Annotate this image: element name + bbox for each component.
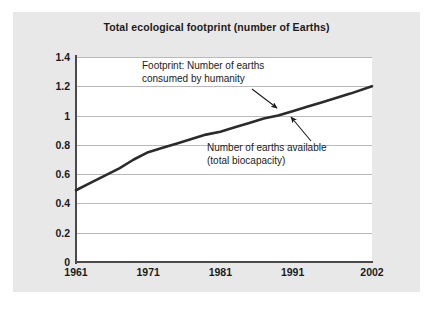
gridline [76, 233, 372, 234]
x-tick-label: 2002 [360, 266, 383, 278]
x-tick-label: 1991 [281, 266, 304, 278]
x-axis-line [75, 261, 373, 263]
gridline [76, 86, 372, 87]
chart-figure: Total ecological footprint (number of Ea… [0, 0, 434, 312]
y-axis-ticks: 00.20.40.60.811.21.4 [34, 57, 70, 262]
y-axis-line [75, 55, 77, 264]
gridline [76, 57, 372, 58]
y-tick-label: 1.4 [36, 51, 70, 63]
y-tick-label: 1.2 [36, 80, 70, 92]
x-tick-label: 1961 [64, 266, 87, 278]
annotation-footprint: Footprint: Number of earths consumed by … [142, 60, 264, 85]
gridline [76, 203, 372, 204]
x-tick-label: 1981 [209, 266, 232, 278]
y-tick-label: 0.8 [36, 139, 70, 151]
annotation-footprint-line1: Footprint: Number of earths [142, 60, 264, 73]
annotation-biocapacity-line2: (total biocapacity) [207, 155, 327, 168]
gridline [76, 174, 372, 175]
annotation-biocapacity: Number of earths available (total biocap… [207, 142, 327, 167]
x-tick-label: 1971 [137, 266, 160, 278]
y-tick-label: 1 [36, 110, 70, 122]
y-tick-label: 0.4 [36, 197, 70, 209]
chart-title: Total ecological footprint (number of Ea… [13, 21, 420, 33]
y-tick-label: 0.6 [36, 168, 70, 180]
annotation-biocapacity-line1: Number of earths available [207, 142, 327, 155]
x-axis-ticks: 19611971198119912002 [76, 266, 372, 282]
gridline [76, 116, 372, 117]
annotation-footprint-line2: consumed by humanity [142, 73, 264, 86]
y-tick-label: 0.2 [36, 227, 70, 239]
